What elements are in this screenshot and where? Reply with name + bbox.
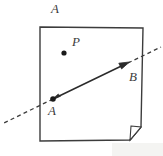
plane-label: A — [51, 2, 59, 15]
bottom-right-wash — [112, 143, 163, 156]
plane-corner-fold-triangle — [130, 126, 141, 140]
point-a-label: A — [48, 104, 56, 117]
point-p-label: P — [72, 35, 80, 48]
point-a-dot — [50, 96, 56, 102]
point-p-dot — [61, 50, 66, 55]
plane-outline — [40, 27, 143, 141]
geometry-figure: A P A B — [0, 0, 163, 156]
figure-canvas — [0, 0, 163, 156]
point-b-label: B — [129, 70, 137, 83]
